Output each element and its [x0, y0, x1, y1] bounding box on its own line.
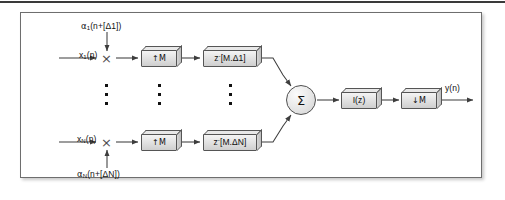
upsampler-block-bottom: ↑M [141, 130, 179, 149]
multiplier-top: × [100, 52, 113, 65]
box-front-face: ↓M [401, 92, 437, 109]
box-front-face: ↑M [141, 50, 177, 67]
box-front-face: I(z) [341, 92, 377, 109]
figure-frame: x1(n) α1(n+[Δ1]) × ↑M z-[M.Δ1] xN(n) αN(… [20, 12, 482, 178]
multiplier-bottom: × [100, 136, 113, 149]
downsampler-block: ↓M [401, 88, 439, 107]
upsampler-label-bottom: ↑M [152, 138, 166, 147]
coefficient-label-alpha1: α1(n+[Δ1]) [81, 22, 121, 31]
delay-label-bottom: z-[M.ΔN] [213, 137, 246, 147]
page-top-rule [0, 1, 505, 3]
input-label-x1: x1(n) [79, 51, 98, 60]
upsampler-block-top: ↑M [141, 46, 179, 65]
upsampler-label-top: ↑M [152, 54, 166, 63]
delay-block-bottom: z-[M.ΔN] [203, 130, 259, 149]
coefficient-label-alphaN: αN(n+[ΔN]) [77, 170, 120, 179]
box-front-face: z-[M.ΔN] [203, 134, 257, 151]
downsampler-label: ↓M [412, 96, 426, 105]
sigma-symbol: Σ [297, 94, 305, 107]
filter-block-iz: I(z) [341, 88, 379, 107]
output-label-yn: y(n) [445, 84, 460, 93]
ellipsis-column-upsamplers [158, 84, 161, 105]
summation-node: Σ [286, 85, 316, 115]
filter-label-iz: I(z) [353, 95, 366, 105]
delay-label-top: z-[M.Δ1] [214, 53, 246, 63]
delay-block-top: z-[M.Δ1] [203, 46, 259, 65]
box-front-face: ↑M [141, 134, 177, 151]
input-label-xN: xN(n) [77, 135, 97, 144]
box-front-face: z-[M.Δ1] [203, 50, 257, 67]
ellipsis-column-delays [229, 84, 232, 105]
ellipsis-column-multipliers [105, 84, 108, 105]
